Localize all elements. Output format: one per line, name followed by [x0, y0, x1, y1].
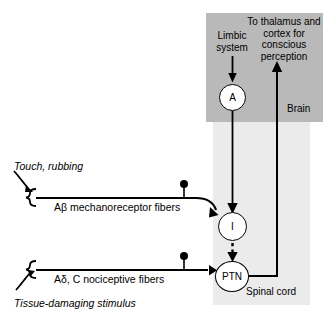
adelta-fiber-label: Aδ, C nociceptive fibers: [54, 274, 164, 286]
adelta-receptor-ending: [16, 261, 36, 290]
figure-canvas: A I PTN Limbic system To thalamus and co…: [0, 0, 331, 322]
touch-rubbing-label: Touch, rubbing: [14, 161, 83, 173]
to-thalamus-cortex-label: To thalamus and cortex for conscious per…: [245, 16, 323, 62]
node-i: I: [218, 212, 247, 241]
node-ptn-label: PTN: [222, 271, 242, 282]
node-i-label: I: [231, 221, 234, 232]
abeta-fiber-label: Aβ mechanoreceptor fibers: [54, 202, 180, 214]
node-ptn: PTN: [215, 261, 249, 292]
node-a: A: [219, 84, 246, 111]
spinal-cord-region-label: Spinal cord: [246, 286, 296, 298]
abeta-receptor-ending: [14, 171, 36, 206]
tissue-damaging-stimulus-label: Tissue-damaging stimulus: [14, 298, 136, 310]
adelta-fiber-line: [36, 252, 217, 276]
node-a-label: A: [229, 92, 236, 103]
brain-region-label: Brain: [287, 103, 310, 115]
